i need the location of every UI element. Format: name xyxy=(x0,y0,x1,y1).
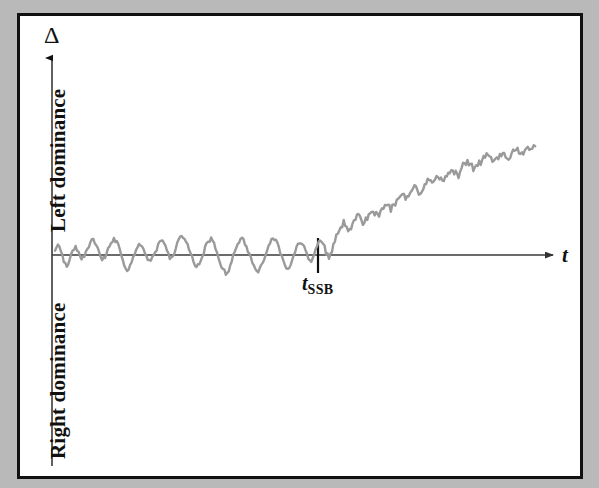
t-axis-label: t xyxy=(562,243,568,268)
delta-symbol: Δ xyxy=(44,22,59,49)
right-dominance-label: Right dominance xyxy=(46,303,71,459)
left-dominance-label: Left dominance xyxy=(46,89,71,232)
plot-panel xyxy=(17,13,583,479)
ssb-time-label-subscript: SSB xyxy=(308,282,334,297)
ssb-time-label: tSSB xyxy=(302,272,333,298)
figure-root: Δ Left dominance Right dominance t tSSB xyxy=(0,0,599,488)
